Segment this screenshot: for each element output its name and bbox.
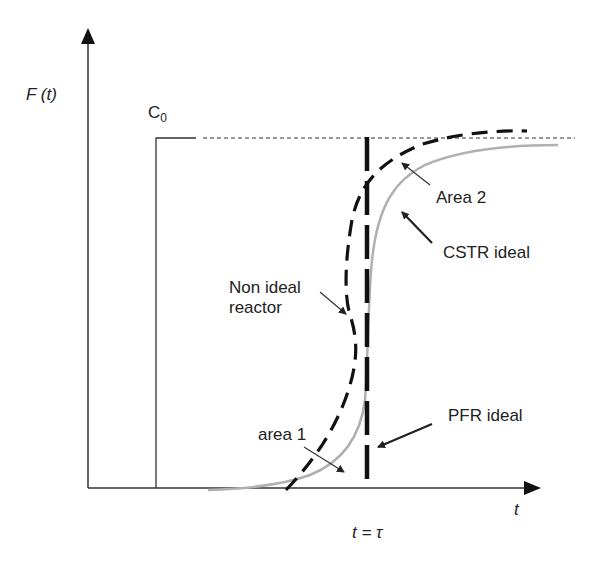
c0-label: C0 [148, 103, 167, 128]
cstr-arrow [402, 212, 432, 243]
c0-label-main: C [148, 103, 160, 122]
area1-label: area 1 [258, 425, 306, 445]
non-ideal-label-line1: Non ideal [229, 278, 301, 298]
y-axis [81, 28, 95, 488]
non-ideal-arrow [320, 292, 346, 314]
non-ideal-label-line2: reactor [229, 298, 282, 318]
c0-label-subscript: 0 [160, 111, 167, 125]
non-ideal-reactor-curve [286, 131, 527, 490]
cstr-ideal-label: CSTR ideal [443, 243, 530, 263]
y-axis-label: F (t) [26, 85, 57, 105]
pfr-ideal-label: PFR ideal [448, 406, 523, 426]
x-axis-label: t [514, 500, 519, 520]
pfr-arrow [378, 424, 432, 447]
area2-label: Area 2 [436, 188, 486, 208]
tau-label: t = τ [352, 523, 382, 543]
area2-arrow [402, 163, 430, 185]
residence-time-diagram [0, 0, 604, 566]
